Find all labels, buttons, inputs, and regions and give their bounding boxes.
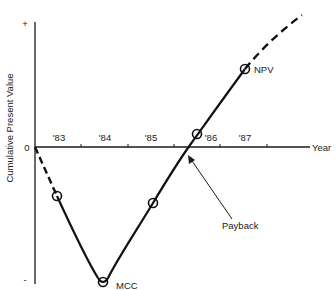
x-tick-label-83: '83 bbox=[53, 132, 65, 143]
y-zero-label: 0 bbox=[24, 142, 29, 153]
data-markers bbox=[53, 65, 250, 287]
mcc-label: MCC bbox=[116, 280, 138, 290]
y-plus-label: + bbox=[22, 18, 28, 29]
npv-label: NPV bbox=[254, 64, 274, 75]
arrowhead-icon bbox=[188, 155, 195, 164]
curve-dashed-end bbox=[245, 15, 302, 69]
x-tick-label-86: '86 bbox=[205, 132, 217, 143]
x-axis-title: Year bbox=[312, 142, 331, 153]
x-tick-label-85: '85 bbox=[145, 132, 157, 143]
x-tick-label-84: '84 bbox=[99, 132, 111, 143]
y-axis-title: Cumulative Present Value bbox=[4, 73, 15, 182]
payback-label: Payback bbox=[222, 220, 259, 231]
curve-solid bbox=[57, 69, 245, 282]
x-tick-label-87: '87 bbox=[239, 132, 251, 143]
payback-arrow bbox=[190, 158, 232, 219]
cumulative-present-value-chart: + 0 - Cumulative Present Value '83 '84 '… bbox=[0, 0, 336, 290]
curve-dashed-start bbox=[35, 147, 57, 196]
y-minus-label: - bbox=[23, 274, 26, 285]
